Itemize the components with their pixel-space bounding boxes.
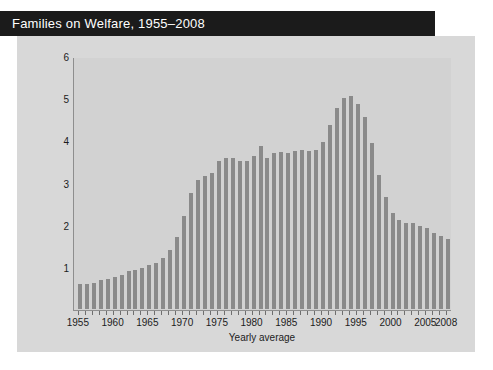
y-axis-tick-label: 3 bbox=[63, 180, 69, 190]
x-axis-tick-mark bbox=[196, 311, 197, 315]
x-axis-tick-mark bbox=[279, 311, 280, 315]
x-axis-tick-mark bbox=[140, 311, 141, 315]
x-axis-tick-mark bbox=[425, 311, 426, 315]
bar bbox=[127, 271, 131, 309]
x-axis-tick-mark bbox=[300, 311, 301, 315]
x-axis-tick-mark bbox=[314, 311, 315, 315]
x-axis-tick-mark bbox=[411, 311, 412, 315]
x-axis-tick-label: 1980 bbox=[240, 317, 262, 328]
x-axis-tick-mark bbox=[92, 311, 93, 315]
bar bbox=[265, 158, 269, 309]
x-axis-tick-label: 2008 bbox=[435, 317, 457, 328]
x-axis-tick-mark bbox=[432, 311, 433, 315]
x-axis-tick-mark bbox=[446, 311, 447, 315]
x-axis-tick-mark bbox=[377, 311, 378, 315]
bar bbox=[384, 197, 388, 309]
x-axis-tick-mark bbox=[224, 311, 225, 315]
bar bbox=[391, 213, 395, 309]
x-axis-tick-mark bbox=[272, 311, 273, 315]
bar bbox=[397, 220, 401, 309]
bar bbox=[196, 180, 200, 309]
x-axis-tick-mark bbox=[335, 311, 336, 315]
x-axis-tick-mark bbox=[307, 311, 308, 315]
x-axis-tick-mark bbox=[147, 311, 148, 315]
x-axis-tick-mark bbox=[245, 311, 246, 315]
x-axis-tick-mark bbox=[189, 311, 190, 315]
x-axis-tick-mark bbox=[404, 311, 405, 315]
x-axis-tick-mark bbox=[252, 311, 253, 315]
y-axis-tick-label: 1 bbox=[63, 264, 69, 274]
y-axis-tick-label: 2 bbox=[63, 222, 69, 232]
bar bbox=[307, 151, 311, 309]
chart-figure: Families on Welfare, 1955–2008 Number of… bbox=[0, 0, 493, 370]
x-axis-tick-mark bbox=[203, 311, 204, 315]
bar bbox=[140, 268, 144, 309]
bar bbox=[203, 176, 207, 309]
bar bbox=[377, 175, 381, 309]
bar bbox=[300, 150, 304, 309]
x-axis-tick-mark bbox=[321, 311, 322, 315]
bar bbox=[259, 146, 263, 309]
bar bbox=[231, 158, 235, 309]
bar bbox=[404, 223, 408, 309]
bar bbox=[342, 98, 346, 309]
x-axis-tick-mark bbox=[85, 311, 86, 315]
bar bbox=[210, 173, 214, 309]
bar bbox=[314, 150, 318, 309]
x-axis-tick-mark bbox=[397, 311, 398, 315]
x-axis-title: Yearly average bbox=[73, 332, 451, 343]
x-axis-tick-mark bbox=[293, 311, 294, 315]
bar bbox=[106, 279, 110, 309]
x-axis-tick-mark bbox=[113, 311, 114, 315]
x-axis-tick-mark bbox=[356, 311, 357, 315]
x-axis-tick-label: 2005 bbox=[414, 317, 436, 328]
bar bbox=[418, 226, 422, 309]
x-axis-tick-label: 1970 bbox=[171, 317, 193, 328]
bar bbox=[147, 265, 151, 309]
x-axis-tick-mark bbox=[182, 311, 183, 315]
x-axis-tick-mark bbox=[106, 311, 107, 315]
x-axis-tick-label: 1990 bbox=[310, 317, 332, 328]
x-axis-tick-mark bbox=[99, 311, 100, 315]
y-axis-tick-label: 6 bbox=[63, 53, 69, 63]
bar bbox=[272, 153, 276, 309]
chart-title-banner: Families on Welfare, 1955–2008 bbox=[0, 11, 435, 36]
x-axis-tick-mark bbox=[78, 311, 79, 315]
x-axis-tick-mark bbox=[231, 311, 232, 315]
bar bbox=[85, 284, 89, 309]
chart-card: Number of families (in millions) 123456 … bbox=[17, 36, 475, 352]
y-axis-tick-label: 4 bbox=[63, 137, 69, 147]
bar bbox=[439, 236, 443, 309]
bar bbox=[154, 263, 158, 309]
bar bbox=[370, 143, 374, 309]
x-axis-tick-mark bbox=[238, 311, 239, 315]
bar bbox=[189, 193, 193, 309]
bar bbox=[175, 237, 179, 309]
x-axis-tick-mark bbox=[217, 311, 218, 315]
bar bbox=[335, 108, 339, 309]
bar bbox=[217, 161, 221, 309]
x-axis-tick-mark bbox=[286, 311, 287, 315]
bar bbox=[92, 283, 96, 309]
bar bbox=[293, 151, 297, 309]
x-axis-tick-mark bbox=[168, 311, 169, 315]
bar bbox=[425, 228, 429, 309]
bar-series bbox=[75, 58, 451, 309]
x-axis-tick-mark bbox=[342, 311, 343, 315]
bar bbox=[78, 284, 82, 309]
plot-area bbox=[73, 58, 451, 311]
bar bbox=[279, 152, 283, 309]
bar bbox=[245, 161, 249, 309]
x-axis-tick-mark bbox=[120, 311, 121, 315]
bar bbox=[252, 156, 256, 309]
bar bbox=[321, 142, 325, 309]
x-axis-tick-label: 1955 bbox=[67, 317, 89, 328]
bar bbox=[356, 104, 360, 309]
x-axis-tick-mark bbox=[265, 311, 266, 315]
bar bbox=[238, 161, 242, 309]
x-axis-tick-label: 2000 bbox=[379, 317, 401, 328]
x-axis-tick-mark bbox=[363, 311, 364, 315]
bar bbox=[161, 258, 165, 309]
bar bbox=[432, 233, 436, 309]
x-axis-tick-label: 1960 bbox=[101, 317, 123, 328]
